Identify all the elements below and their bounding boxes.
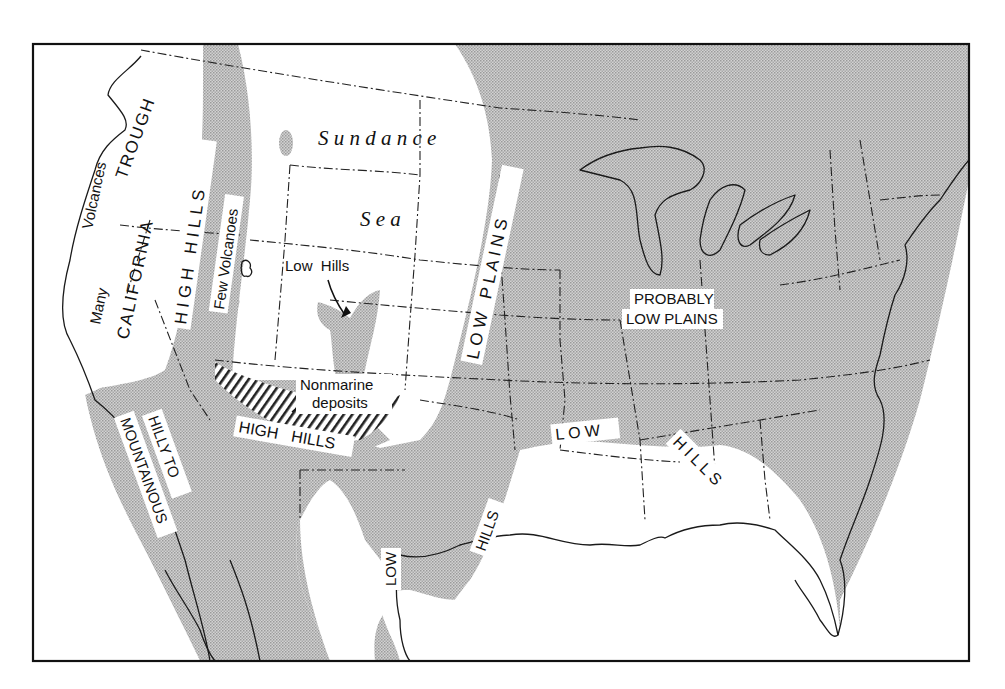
label-deposits-text: deposits: [312, 394, 368, 411]
label-sea: S e a: [360, 207, 401, 231]
small-island: [279, 130, 293, 156]
label-low-mexico: LOW: [382, 551, 399, 586]
paleogeographic-map: Many CALIFORNIA Volcances TROUGH H I G H…: [0, 0, 1005, 689]
label-probably-low-plains: LOW PLAINS: [626, 310, 718, 327]
cropped-caption-fragment: [0, 682, 1005, 689]
label-nonmarine: Nonmarine: [300, 376, 373, 393]
label-sundance: S u n d a n c e: [318, 126, 436, 150]
label-probably: PROBABLY: [634, 290, 714, 307]
label-low-hills: Low Hills: [285, 257, 349, 274]
